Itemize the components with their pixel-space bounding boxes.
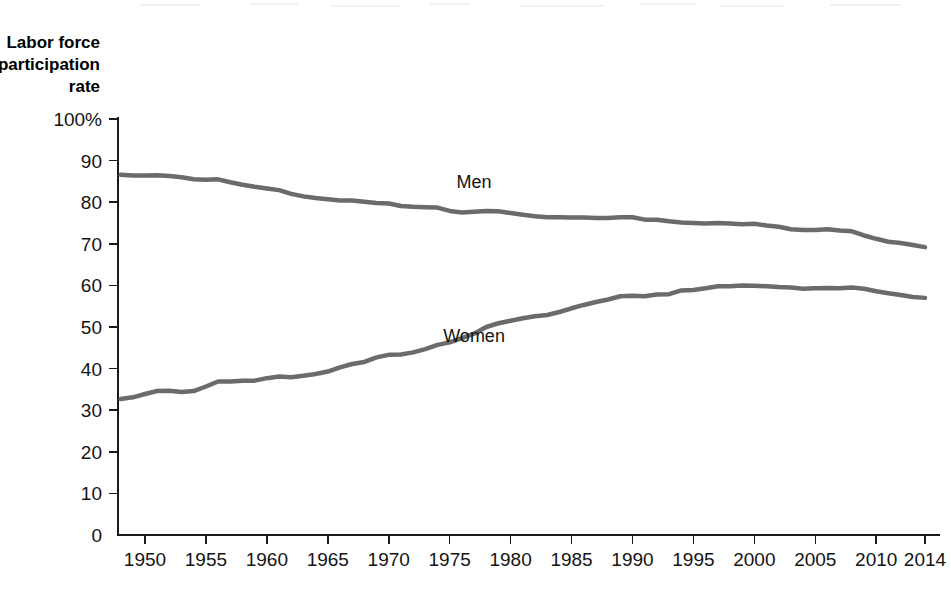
y-tick-label: 20: [81, 442, 102, 463]
y-axis-ticks: [109, 119, 118, 493]
x-axis-ticks: [145, 535, 925, 544]
x-axis-tick-labels: 1950195519601965197019751980198519901995…: [124, 549, 947, 570]
y-tick-label: 10: [81, 483, 102, 504]
x-tick-label: 2000: [733, 549, 775, 570]
y-axis-tick-labels: 100%9080706050403020100: [53, 109, 102, 546]
data-series-group: [121, 175, 925, 399]
chart-page: Labor force participation rate 100%90807…: [0, 0, 951, 597]
y-axis-title-line1: Labor force: [6, 33, 100, 52]
y-tick-label: 30: [81, 400, 102, 421]
y-tick-label: 80: [81, 192, 102, 213]
y-tick-label: 0: [91, 525, 102, 546]
series-line-men: [121, 175, 925, 247]
y-tick-label: 50: [81, 317, 102, 338]
series-label-women: Women: [443, 326, 505, 346]
series-line-women: [121, 285, 925, 399]
axis-lines: [118, 117, 940, 535]
y-axis-title-line3: rate: [69, 77, 100, 96]
x-tick-label: 2005: [794, 549, 836, 570]
scan-artifact-band: [140, 3, 902, 7]
x-tick-label: 2014: [904, 549, 947, 570]
line-chart: Labor force participation rate 100%90807…: [0, 0, 951, 597]
x-tick-label: 1960: [246, 549, 288, 570]
x-tick-label: 1950: [124, 549, 166, 570]
y-tick-label: 40: [81, 359, 102, 380]
x-tick-label: 1970: [368, 549, 410, 570]
y-tick-label: 90: [81, 151, 102, 172]
x-tick-label: 2010: [855, 549, 897, 570]
x-tick-label: 1955: [185, 549, 227, 570]
y-axis-title-line2: participation: [0, 55, 100, 74]
y-tick-label: 70: [81, 234, 102, 255]
x-tick-label: 1975: [429, 549, 471, 570]
y-tick-label: 60: [81, 275, 102, 296]
x-tick-label: 1990: [611, 549, 653, 570]
x-tick-label: 1995: [672, 549, 714, 570]
x-tick-label: 1980: [489, 549, 531, 570]
series-annotations: MenWomen: [443, 172, 505, 346]
x-tick-label: 1965: [307, 549, 349, 570]
y-axis-title: Labor force participation rate: [0, 33, 100, 96]
x-tick-label: 1985: [550, 549, 592, 570]
y-tick-label: 100%: [53, 109, 102, 130]
series-label-men: Men: [457, 172, 492, 192]
